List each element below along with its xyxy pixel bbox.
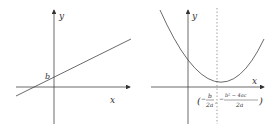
svg-text:): ): [258, 95, 263, 106]
y-axis-label: y: [191, 11, 198, 21]
x-axis-label: x: [110, 95, 115, 105]
vertex-x-denominator: 2a: [205, 101, 214, 108]
vertex-x-numerator: b: [208, 92, 212, 99]
x-axis-label: x: [252, 76, 257, 86]
intercept-label: b: [45, 72, 50, 81]
vertex-label: ( − b 2a , − b² − 4ac 2a ): [197, 92, 263, 108]
linear-function-line: [16, 39, 131, 96]
parabola-curve: [160, 10, 264, 82]
vertex-y-numerator: b² − 4ac: [225, 92, 247, 98]
svg-text:,: ,: [215, 97, 217, 104]
y-axis-label: y: [58, 11, 65, 21]
vertex-y-denominator: 2a: [235, 101, 244, 108]
svg-text:−: −: [219, 95, 224, 102]
diagram-canvas: y x b y x ( − b 2a , − b² − 4ac 2a ): [0, 0, 280, 133]
linear-graph: y x b: [16, 10, 131, 124]
parabola-graph: y x ( − b 2a , − b² − 4ac 2a ): [151, 8, 264, 124]
